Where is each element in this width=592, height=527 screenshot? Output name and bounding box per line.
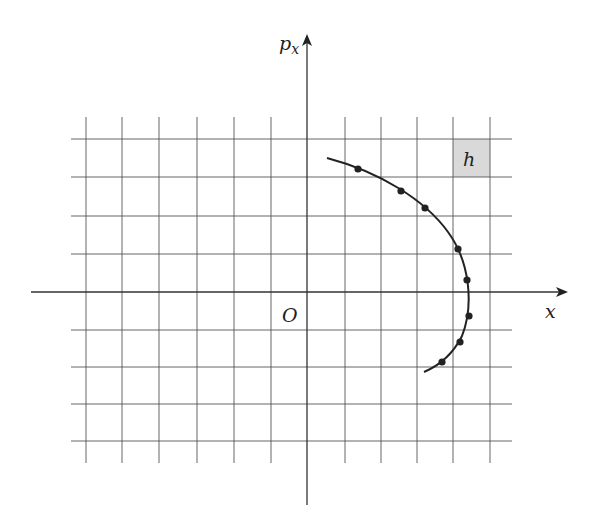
trajectory-point bbox=[421, 204, 428, 211]
trajectory-point bbox=[454, 245, 461, 252]
phase-space-diagram: h O x px bbox=[0, 0, 592, 527]
origin-label: O bbox=[282, 304, 298, 326]
grid bbox=[71, 117, 512, 463]
trajectory-point bbox=[456, 338, 463, 345]
px-axis-label: px bbox=[279, 32, 299, 57]
cell-label: h bbox=[463, 148, 475, 170]
trajectory-point bbox=[354, 165, 361, 172]
trajectory-point bbox=[463, 276, 470, 283]
trajectory-points bbox=[354, 165, 472, 365]
x-axis-label: x bbox=[545, 300, 556, 322]
trajectory-point bbox=[438, 358, 445, 365]
trajectory-point bbox=[397, 187, 404, 194]
trajectory-point bbox=[465, 312, 472, 319]
